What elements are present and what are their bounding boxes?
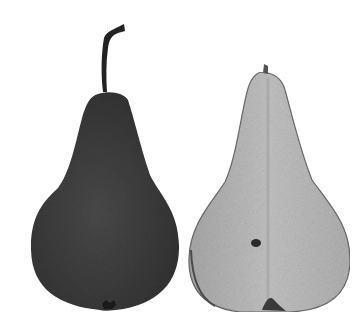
pears-illustration bbox=[0, 0, 364, 334]
photo-scene bbox=[0, 0, 364, 334]
seed-spot bbox=[251, 239, 261, 247]
whole-pear bbox=[31, 92, 179, 311]
pear-stem bbox=[102, 24, 125, 92]
halved-pear-stem bbox=[263, 64, 268, 74]
